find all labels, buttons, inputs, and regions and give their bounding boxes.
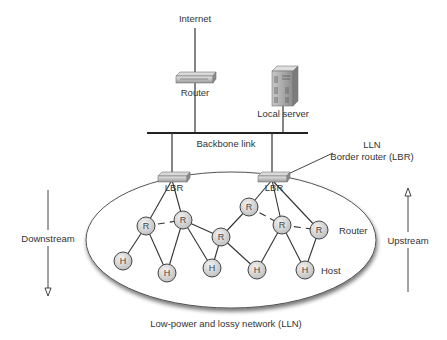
router-label: Router (181, 88, 210, 98)
node-R1-label: R (143, 222, 150, 231)
downstream-label: Downstream (21, 234, 74, 244)
legend-host-label: Host (321, 266, 341, 276)
lbr-callout-line (286, 153, 333, 175)
node-H4-label: H (302, 266, 309, 275)
legend-router-label: Router (339, 226, 368, 236)
lbr-callout-line1: LLN (363, 140, 380, 150)
lbr1-label: LBR (165, 183, 183, 193)
node-R3-label: R (218, 233, 225, 242)
lbr2-icon (258, 172, 290, 182)
node-R6-label: R (316, 226, 323, 235)
lbr1-icon (158, 172, 190, 182)
backbone-link-label: Backbone link (196, 139, 255, 149)
lln-diagram (0, 0, 447, 340)
local-server-icon (272, 66, 298, 106)
router-icon (176, 72, 216, 83)
node-H1-label: H (164, 269, 171, 278)
lln-ellipse (86, 172, 376, 308)
lbr-callout-line2: Border router (LBR) (330, 152, 413, 162)
node-H3-label: H (254, 266, 261, 275)
lln-caption: Low-power and lossy network (LLN) (150, 319, 302, 329)
node-H2-label: H (209, 264, 216, 273)
node-R5-label: R (279, 221, 286, 230)
lbr2-label: LBR (265, 183, 283, 193)
local-server-label: Local server (257, 109, 309, 119)
node-H0-label: H (120, 257, 127, 266)
node-R4-label: R (246, 203, 253, 212)
internet-label: Internet (179, 14, 211, 24)
node-R2-label: R (180, 216, 187, 225)
upstream-label: Upstream (387, 236, 428, 246)
